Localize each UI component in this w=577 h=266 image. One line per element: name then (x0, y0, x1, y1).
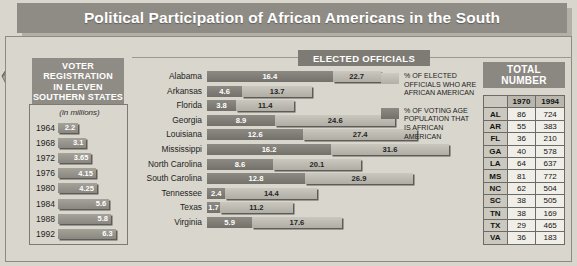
vr-bar-track: 5.8 (58, 213, 129, 225)
state-abbr-cell: GA (484, 145, 508, 157)
state-abbr-cell: SC (484, 195, 508, 207)
vr-row: 1964 2.2 (30, 120, 129, 135)
vr-value: 4.15 (78, 169, 93, 178)
count-1994-cell: 504 (536, 182, 565, 194)
elected-officials-chart: Alabama 22.7 16.4 Arkansas 13.7 4.6 Flor… (132, 70, 372, 231)
bar-value-voting-age: 27.4 (353, 130, 368, 139)
state-abbr-cell: NC (484, 182, 508, 194)
vr-bar-track: 4.15 (58, 167, 129, 179)
bar-value-voting-age: 11.2 (249, 203, 263, 212)
tn-heading-line-2: NUMBER (501, 75, 547, 86)
vr-bar-track: 6.3 (58, 228, 129, 240)
bar-value-elected-officials: 8.9 (236, 116, 247, 125)
count-1970-cell: 36 (507, 133, 536, 145)
vr-bar: 5.6 (58, 199, 109, 209)
voter-registration-panel: (in millions) 1964 2.2 1968 3.1 1972 3.6… (29, 104, 128, 245)
count-1970-cell: 86 (507, 108, 536, 120)
chart-category-label: Louisiana (132, 129, 202, 139)
chart-bar-group: 17.6 5.9 (207, 216, 342, 229)
vr-year: 1968 (30, 138, 58, 148)
elected-officials-title: ELECTED OFFICIALS (313, 53, 415, 64)
bar-voting-age-population: 17.6 (252, 217, 342, 228)
chart-bar-group: 13.7 4.6 (207, 85, 312, 98)
bar-voting-age-population: 26.9 (305, 173, 413, 184)
bar-value-voting-age: 13.7 (270, 87, 285, 96)
bar-value-elected-officials: 12.6 (248, 130, 263, 139)
chart-row: Tennessee 14.4 2.4 (132, 187, 372, 202)
count-1970-cell: 29 (507, 219, 536, 231)
count-1970-cell: 55 (507, 120, 536, 132)
chart-bar-group: 20.1 8.6 (207, 158, 361, 171)
bar-voting-age-population: 13.7 (242, 86, 312, 97)
count-1970-cell: 62 (507, 182, 536, 194)
count-1994-cell: 637 (536, 157, 565, 169)
vr-row: 1972 3.65 (30, 150, 129, 165)
bar-value-elected-officials: 16.4 (262, 72, 277, 81)
bar-elected-officials: 16.2 (207, 144, 331, 155)
voter-registration-bars: 1964 2.2 1968 3.1 1972 3.65 1976 4.15 (30, 120, 129, 242)
table-row: VA 36 183 (484, 232, 565, 244)
bar-value-elected-officials: 12.8 (249, 174, 264, 183)
bar-value-voting-age: 22.7 (349, 72, 364, 81)
table-col-header (484, 96, 508, 108)
bar-value-elected-officials: 2.4 (211, 189, 222, 198)
table-row: GA 40 578 (484, 145, 565, 157)
vr-row: 1988 5.8 (30, 211, 129, 226)
vr-bar: 6.3 (58, 229, 116, 239)
table-row: NC 62 504 (484, 182, 565, 194)
legend-item: % OF VOTING AGE POPULATION THAT IS AFRIC… (381, 107, 477, 141)
table-row: LA 64 637 (484, 157, 565, 169)
table-row: FL 36 210 (484, 133, 565, 145)
vr-units-label: (in millions) (30, 108, 129, 117)
bar-elected-officials: 12.6 (207, 129, 303, 140)
count-1994-cell: 383 (536, 120, 565, 132)
bar-elected-officials: 1.7 (207, 202, 220, 213)
bar-value-elected-officials: 4.6 (219, 87, 230, 96)
bar-elected-officials: 4.6 (207, 86, 242, 97)
vr-bar-track: 3.65 (58, 152, 129, 164)
vr-value: 6.3 (102, 229, 112, 238)
chart-category-label: Texas (132, 202, 202, 212)
chart-category-label: Alabama (132, 71, 202, 81)
state-abbr-cell: TX (484, 219, 508, 231)
count-1994-cell: 724 (536, 108, 565, 120)
table-row: MS 81 772 (484, 170, 565, 182)
vr-heading-line-1: VOTER (62, 61, 94, 72)
count-1970-cell: 36 (507, 232, 536, 244)
bar-value-elected-officials: 5.9 (224, 218, 235, 227)
vr-year: 1972 (30, 153, 58, 163)
chart-category-label: Georgia (132, 115, 202, 125)
bar-value-elected-officials: 1.7 (208, 203, 219, 212)
count-1994-cell: 210 (536, 133, 565, 145)
chart-bar-group: 14.4 2.4 (207, 187, 317, 200)
bar-value-voting-age: 24.6 (328, 116, 343, 125)
chart-category-label: South Carolina (132, 173, 202, 183)
table-row: AR 55 383 (484, 120, 565, 132)
chart-row: South Carolina 26.9 12.8 (132, 172, 372, 187)
chart-category-label: North Carolina (132, 159, 202, 169)
vr-value: 3.65 (74, 153, 89, 162)
state-abbr-cell: AR (484, 120, 508, 132)
chart-row: Georgia 24.6 8.9 (132, 114, 372, 129)
vr-year: 1980 (30, 183, 58, 193)
vr-heading-line-2: REGISTRATION (43, 71, 113, 82)
vr-bar-track: 2.2 (58, 122, 129, 134)
vr-bar: 4.25 (58, 183, 97, 193)
bar-value-elected-officials: 3.8 (216, 101, 227, 110)
table-col-header: 1970 (507, 96, 536, 108)
bar-voting-age-population: 20.1 (273, 159, 361, 170)
vr-year: 1988 (30, 214, 58, 224)
vr-value: 5.8 (98, 214, 108, 223)
count-1970-cell: 40 (507, 145, 536, 157)
vr-row: 1984 5.6 (30, 196, 129, 211)
vr-bar: 2.2 (58, 123, 78, 133)
vr-row: 1992 6.3 (30, 226, 129, 241)
table-col-header: 1994 (536, 96, 565, 108)
vr-bar: 3.65 (58, 153, 91, 163)
vr-heading-line-3: IN ELEVEN (53, 82, 102, 93)
state-abbr-cell: LA (484, 157, 508, 169)
state-abbr-cell: AL (484, 108, 508, 120)
vr-value: 2.2 (65, 123, 75, 132)
state-abbr-cell: MS (484, 170, 508, 182)
bar-voting-age-population: 24.6 (275, 115, 395, 126)
